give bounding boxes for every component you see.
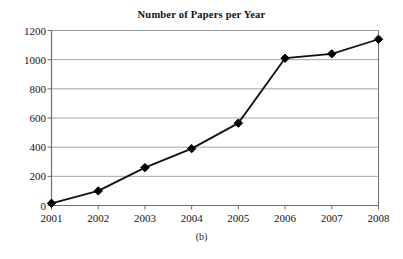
x-axis-tick-label: 2005 xyxy=(227,212,249,224)
x-axis-tick-label: 2003 xyxy=(134,212,156,224)
figure-caption: (b) xyxy=(0,231,403,242)
data-point-marker xyxy=(187,144,195,152)
y-axis-tick-label: 1000 xyxy=(4,54,46,66)
x-axis-tick-label: 2002 xyxy=(87,212,109,224)
y-axis-tick-label: 0 xyxy=(4,200,46,212)
figure-panel: Number of Papers per Year 02004006008001… xyxy=(0,0,403,259)
data-point-marker xyxy=(328,50,336,58)
x-axis-tick-label: 2004 xyxy=(181,212,203,224)
data-point-marker xyxy=(94,187,102,195)
data-point-marker xyxy=(374,35,382,43)
y-axis-tick-label: 1200 xyxy=(4,25,46,37)
y-axis-tick-label: 200 xyxy=(4,170,46,182)
y-axis-tick-label: 600 xyxy=(4,112,46,124)
data-line xyxy=(52,39,379,203)
x-axis-tick-label: 2007 xyxy=(321,212,343,224)
line-chart: 020040060080010001200 200120022003200420… xyxy=(0,0,403,259)
y-axis-tick-label: 400 xyxy=(4,141,46,153)
x-axis-tick-label: 2008 xyxy=(368,212,390,224)
x-axis-tick-label: 2001 xyxy=(41,212,63,224)
y-axis-tick-label: 800 xyxy=(4,83,46,95)
x-axis-tick-label: 2006 xyxy=(274,212,296,224)
data-point-marker xyxy=(141,163,149,171)
data-point-marker xyxy=(47,199,55,207)
